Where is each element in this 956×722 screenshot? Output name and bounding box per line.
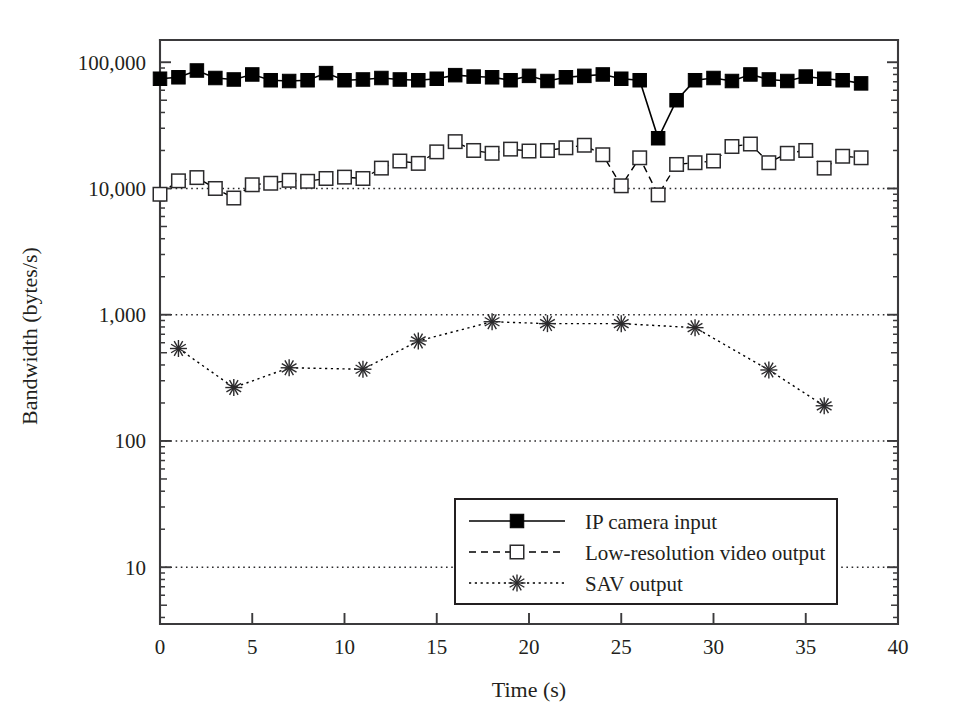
- series-0: [153, 64, 868, 145]
- marker-filled-square: [227, 73, 241, 87]
- marker-filled-square: [172, 71, 186, 85]
- marker-open-square: [578, 138, 592, 152]
- marker-open-square: [485, 147, 499, 161]
- marker-open-square: [781, 147, 795, 161]
- legend-label: SAV output: [585, 572, 683, 596]
- marker-filled-square: [153, 72, 167, 86]
- marker-asterisk: [225, 379, 242, 396]
- marker-open-square: [172, 174, 186, 188]
- marker-open-square: [854, 151, 868, 165]
- marker-open-square: [319, 172, 333, 186]
- x-tick-label: 15: [426, 635, 447, 659]
- marker-asterisk: [687, 319, 704, 336]
- marker-open-square: [744, 137, 758, 151]
- marker-filled-square: [209, 71, 223, 85]
- x-tick-label: 25: [611, 635, 632, 659]
- marker-filled-square: [781, 74, 795, 88]
- marker-open-square: [282, 174, 296, 188]
- marker-open-square: [762, 156, 776, 170]
- marker-open-square: [707, 154, 721, 168]
- marker-asterisk: [760, 361, 777, 378]
- marker-filled-square: [448, 68, 462, 82]
- marker-filled-square: [762, 73, 776, 87]
- marker-asterisk: [484, 313, 501, 330]
- legend-label: IP camera input: [585, 510, 717, 534]
- marker-open-square: [412, 157, 426, 171]
- marker-open-square: [522, 144, 536, 158]
- x-tick-label: 5: [247, 635, 258, 659]
- marker-open-square: [227, 191, 241, 205]
- x-axis-title: Time (s): [492, 677, 566, 702]
- marker-open-square: [651, 188, 665, 202]
- marker-open-square: [448, 135, 462, 149]
- marker-filled-square: [301, 73, 315, 87]
- legend: IP camera inputLow-resolution video outp…: [455, 499, 837, 604]
- marker-filled-square: [282, 74, 296, 88]
- marker-filled-square: [246, 68, 260, 82]
- chart-canvas: 100,00010,0001,000100100510152025303540 …: [0, 0, 956, 722]
- marker-open-square: [338, 170, 352, 184]
- marker-filled-square: [559, 71, 573, 85]
- y-axis-title: Bandwidth (bytes/s): [17, 247, 42, 425]
- marker-filled-square: [651, 131, 665, 145]
- marker-filled-square: [485, 71, 499, 85]
- marker-filled-square: [375, 71, 389, 85]
- marker-asterisk: [281, 359, 298, 376]
- x-tick-label: 35: [795, 635, 816, 659]
- marker-filled-square: [412, 73, 426, 87]
- marker-filled-square: [510, 514, 524, 528]
- x-tick-label: 0: [155, 635, 166, 659]
- marker-open-square: [541, 144, 555, 158]
- y-tick-label: 10,000: [88, 177, 146, 201]
- marker-filled-square: [670, 93, 684, 107]
- marker-asterisk: [539, 315, 556, 332]
- marker-filled-square: [799, 70, 813, 84]
- chart-figure: 100,00010,0001,000100100510152025303540 …: [0, 0, 956, 722]
- x-tick-label: 30: [703, 635, 724, 659]
- marker-asterisk: [816, 397, 833, 414]
- marker-open-square: [688, 156, 702, 170]
- x-tick-label: 20: [519, 635, 540, 659]
- marker-filled-square: [319, 66, 333, 80]
- y-tick-label: 100,000: [78, 51, 146, 75]
- marker-filled-square: [393, 73, 407, 87]
- marker-open-square: [264, 177, 278, 191]
- marker-asterisk: [170, 340, 187, 357]
- marker-filled-square: [541, 74, 555, 88]
- x-tick-label: 10: [334, 635, 355, 659]
- marker-filled-square: [578, 69, 592, 83]
- marker-filled-square: [190, 64, 204, 78]
- marker-filled-square: [633, 73, 647, 87]
- marker-open-square: [430, 145, 444, 159]
- marker-asterisk: [410, 332, 427, 349]
- marker-open-square: [817, 161, 831, 175]
- marker-filled-square: [854, 77, 868, 91]
- y-tick-label: 10: [125, 556, 146, 580]
- marker-open-square: [356, 172, 370, 186]
- marker-filled-square: [504, 73, 518, 87]
- marker-filled-square: [707, 71, 721, 85]
- marker-open-square: [467, 144, 481, 158]
- marker-open-square: [246, 178, 260, 192]
- marker-open-square: [633, 151, 647, 165]
- marker-open-square: [504, 142, 518, 156]
- marker-filled-square: [688, 73, 702, 87]
- marker-open-square: [670, 158, 684, 172]
- marker-filled-square: [264, 73, 278, 87]
- marker-open-square: [615, 179, 629, 193]
- marker-open-square: [301, 175, 315, 189]
- marker-open-square: [799, 144, 813, 158]
- y-tick-label: 100: [115, 429, 147, 453]
- marker-open-square: [559, 141, 573, 155]
- marker-open-square: [725, 140, 739, 154]
- marker-asterisk: [613, 315, 630, 332]
- marker-open-square: [375, 161, 389, 175]
- marker-filled-square: [596, 68, 610, 82]
- y-tick-label: 1,000: [99, 303, 146, 327]
- marker-filled-square: [836, 73, 850, 87]
- data-series-group: [153, 64, 868, 415]
- legend-label: Low-resolution video output: [585, 541, 825, 565]
- marker-open-square: [153, 188, 167, 202]
- marker-filled-square: [615, 72, 629, 86]
- marker-filled-square: [725, 74, 739, 88]
